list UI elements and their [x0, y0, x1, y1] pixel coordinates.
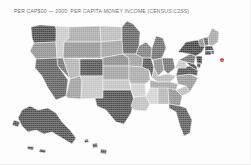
state-HI[interactable]: [84, 139, 107, 154]
state-OH[interactable]: [162, 58, 175, 74]
state-MT[interactable]: [64, 26, 101, 42]
us-map-svg[interactable]: [0, 18, 251, 165]
state-ND[interactable]: [100, 26, 122, 42]
state-WY[interactable]: [63, 42, 101, 58]
state-MN[interactable]: [122, 21, 140, 54]
state-AK-islands: [27, 146, 46, 153]
state-KS[interactable]: [103, 66, 129, 80]
state-CO[interactable]: [80, 59, 103, 76]
state-AZ[interactable]: [66, 76, 82, 99]
northeast-red-marker[interactable]: [220, 58, 224, 62]
state-OR[interactable]: [30, 42, 57, 59]
state-OK[interactable]: [103, 80, 131, 90]
state-MI[interactable]: [151, 36, 166, 60]
state-AK[interactable]: [12, 106, 76, 144]
choropleth-map[interactable]: [0, 18, 251, 165]
state-WA[interactable]: [31, 25, 57, 43]
state-DE[interactable]: [197, 63, 201, 68]
map-screenshot: PER CAP$00 — 2000: PER CAPITA MONEY INCO…: [0, 0, 251, 165]
page-title: PER CAP$00 — 2000: PER CAPITA MONEY INCO…: [14, 7, 189, 14]
state-ME[interactable]: [208, 28, 219, 46]
state-FL[interactable]: [169, 104, 192, 136]
state-CT[interactable]: [205, 51, 211, 55]
state-AR[interactable]: [131, 84, 146, 97]
state-RI[interactable]: [211, 50, 214, 54]
state-AL[interactable]: [158, 88, 169, 104]
state-NM[interactable]: [80, 76, 103, 99]
